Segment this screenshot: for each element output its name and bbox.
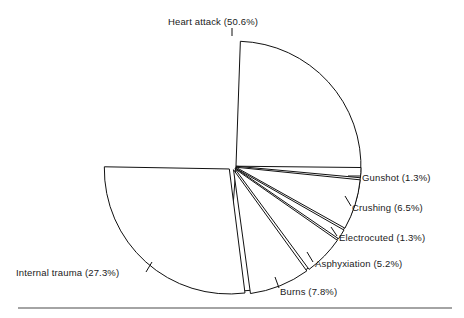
pie-slice[interactable] — [104, 167, 245, 294]
pie-slice-label: Crushing (6.5%) — [352, 203, 423, 213]
pie-slice-label: Gunshot (1.3%) — [362, 173, 431, 183]
pie-slices-group — [104, 41, 361, 294]
pie-slice-label: Electrocuted (1.3%) — [339, 233, 425, 243]
pie-slice-label: Internal trauma (27.3%) — [16, 268, 119, 278]
pie-slice-label: Heart attack (50.6%) — [168, 17, 258, 27]
pie-chart-figure: Heart attack (50.6%)Gunshot (1.3%)Crushi… — [0, 0, 464, 318]
pie-slice-label: Burns (7.8%) — [280, 287, 337, 297]
pie-slice-label: Asphyxiation (5.2%) — [315, 259, 402, 269]
